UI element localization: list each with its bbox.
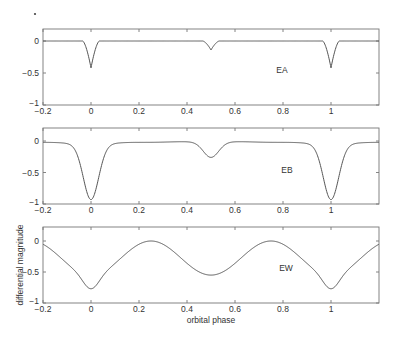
- panel-label: EA: [276, 65, 288, 75]
- x-tick-label: 0: [89, 304, 94, 314]
- x-tick-label: 0.6: [229, 106, 241, 116]
- panel-eb: −0.200.20.40.60.810−0.5−1EB: [22, 128, 379, 215]
- x-tick-label: 0.4: [181, 106, 193, 116]
- axes-frame: [43, 128, 379, 204]
- y-tick-label: −1: [29, 296, 39, 306]
- x-tick-label: 0: [89, 106, 94, 116]
- panel-label: EW: [279, 263, 293, 273]
- panel-label: EB: [281, 165, 293, 175]
- x-tick-label: 0: [89, 205, 94, 215]
- x-tick-label: 0.8: [277, 304, 289, 314]
- light-curve-line: [43, 241, 379, 289]
- x-tick-label: 0.2: [133, 304, 145, 314]
- y-tick-label: −0.5: [22, 168, 39, 178]
- light-curve-figure: −0.200.20.40.60.810−0.5−1EA−0.200.20.40.…: [0, 0, 394, 339]
- y-tick-label: 0: [34, 36, 39, 46]
- light-curve-line: [43, 41, 379, 68]
- axes-frame: [43, 29, 379, 105]
- x-tick-label: 0.4: [181, 304, 193, 314]
- x-tick-label: 0.2: [133, 106, 145, 116]
- x-tick-label: 1: [329, 205, 334, 215]
- x-tick-label: 0.4: [181, 205, 193, 215]
- x-tick-label: 0.8: [277, 205, 289, 215]
- stray-dot: [34, 13, 36, 15]
- y-tick-label: −1: [29, 98, 39, 108]
- x-tick-label: 0.8: [277, 106, 289, 116]
- x-tick-label: 1: [329, 106, 334, 116]
- y-tick-label: −1: [29, 197, 39, 207]
- axes-frame: [43, 227, 379, 303]
- x-tick-label: 0.6: [229, 304, 241, 314]
- x-tick-label: 0.2: [133, 205, 145, 215]
- x-tick-label: 0.6: [229, 205, 241, 215]
- x-axis-label: orbital phase: [187, 315, 236, 325]
- y-tick-label: 0: [34, 136, 39, 146]
- light-curve-line: [43, 142, 379, 200]
- y-tick-label: 0: [34, 236, 39, 246]
- panel-ea: −0.200.20.40.60.810−0.5−1EA: [22, 29, 379, 116]
- y-tick-label: −0.5: [22, 68, 39, 78]
- panel-ew: −0.200.20.40.60.810−0.5−1EW: [22, 227, 379, 314]
- x-tick-label: 1: [329, 304, 334, 314]
- y-axis-label: differential magnitude: [15, 224, 25, 305]
